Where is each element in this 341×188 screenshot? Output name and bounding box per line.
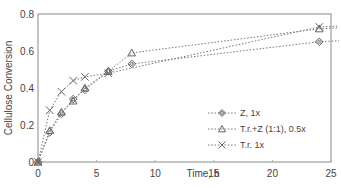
y-tick-label: 0.4 xyxy=(20,83,34,94)
x-axis-label: Time, h xyxy=(187,168,220,179)
legend-label: Z, 1x xyxy=(240,108,261,118)
y-axis-ticks: 00.20.40.60.8 xyxy=(20,9,34,168)
y-tick-label: 0.6 xyxy=(20,46,34,57)
x-tick-label: 0 xyxy=(35,168,41,179)
legend-label: T.r.+Z (1:1), 0.5x xyxy=(240,124,306,134)
x-tick-label: 20 xyxy=(267,168,279,179)
chart: 00.20.40.60.8 0510152025 Cellulose Conve… xyxy=(0,0,341,188)
x-tick-label: 10 xyxy=(150,168,162,179)
legend-label: T.r. 1x xyxy=(240,140,265,150)
y-axis-label: Cellulose Conversion xyxy=(3,41,14,136)
plot-area xyxy=(38,14,331,162)
x-tick-label: 5 xyxy=(94,168,100,179)
y-tick-label: 0.8 xyxy=(20,9,34,20)
x-tick-label: 25 xyxy=(325,168,337,179)
y-tick-label: 0.2 xyxy=(20,120,34,131)
